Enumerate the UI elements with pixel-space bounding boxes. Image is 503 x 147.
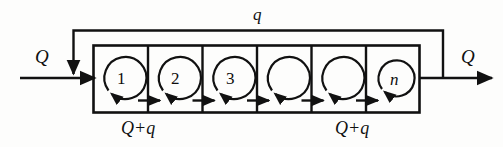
internal-flow-label-right: Q+q: [335, 119, 369, 137]
mixing-swirl-icon-5: [322, 57, 364, 99]
cell-label-n: n: [390, 71, 399, 88]
internal-flow-label-left: Q+q: [121, 119, 155, 137]
cell-divider-group: [148, 46, 366, 113]
mixing-swirl-icon-2: [159, 57, 201, 99]
mixing-swirl-group: [104, 57, 414, 99]
recycle-flow-label: q: [253, 6, 262, 23]
mixing-swirl-icon-4: [268, 57, 310, 99]
cell-label-1: 1: [117, 70, 126, 87]
recycle-stream-line: [74, 31, 444, 79]
inlet-flow-label: Q: [35, 47, 49, 66]
tanks-in-series-diagram: [0, 0, 503, 147]
outlet-flow-label: Q: [461, 47, 475, 66]
figure-root: Q Q q Q+q Q+q 1 2 3 n: [0, 0, 503, 147]
cell-label-3: 3: [226, 70, 235, 87]
cell-label-2: 2: [171, 70, 180, 87]
